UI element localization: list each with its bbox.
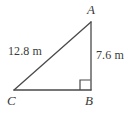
vertex-label-c: C xyxy=(7,94,16,107)
side-length-label-vertical-ab: 7.6 m xyxy=(96,49,124,62)
side-length-label-hypotenuse-ca: 12.8 m xyxy=(8,45,42,58)
vertex-label-b: B xyxy=(85,94,93,107)
vertex-label-a: A xyxy=(87,3,95,16)
right-angle-marker-icon xyxy=(80,80,91,90)
triangle-figure: A B C 12.8 m 7.6 m xyxy=(0,0,129,114)
